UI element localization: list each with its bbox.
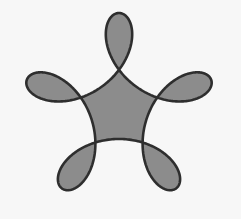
knot-svg — [0, 0, 241, 219]
knot-diagram — [0, 0, 241, 219]
